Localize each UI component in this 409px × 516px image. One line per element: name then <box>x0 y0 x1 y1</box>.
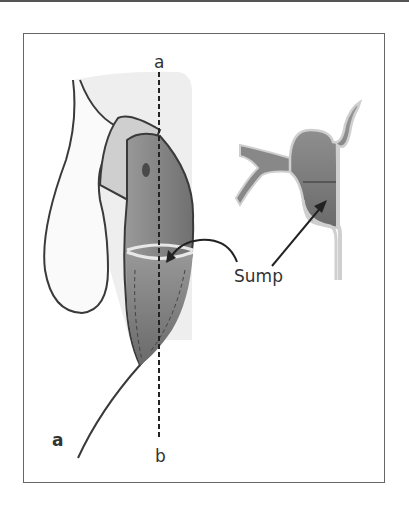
tract-line <box>78 365 140 458</box>
inset-pouch <box>290 102 360 228</box>
panel-label: a <box>52 430 63 450</box>
axis-label-bottom: b <box>155 446 166 466</box>
sump-label: Sump <box>234 266 283 286</box>
branch-vessel <box>236 145 292 205</box>
axis-label-top: a <box>154 52 164 72</box>
